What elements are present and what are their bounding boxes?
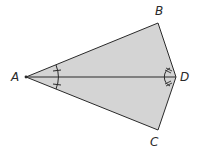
label-a: A: [10, 70, 19, 84]
label-c: C: [150, 135, 159, 149]
label-d: D: [180, 70, 189, 84]
label-b: B: [155, 4, 163, 18]
point-a: [25, 76, 28, 79]
kite-diagram: A B C D: [0, 0, 201, 152]
